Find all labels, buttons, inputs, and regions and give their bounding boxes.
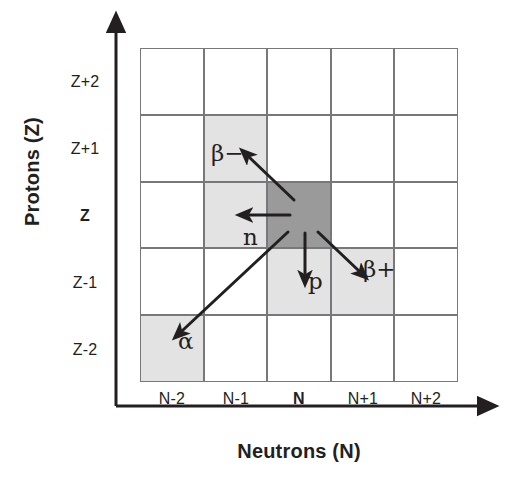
nuclide-cell (394, 182, 458, 249)
x-tick-n-minus-2: N-2 (140, 390, 204, 408)
nuclide-cell (394, 48, 458, 115)
nuclide-cell (204, 48, 268, 115)
nuclide-cell (267, 115, 331, 182)
x-axis-title: Neutrons (N) (140, 440, 458, 463)
beta-plus-label: β+ (363, 258, 396, 281)
nuclide-cell (140, 248, 204, 315)
nuclide-cell (140, 48, 204, 115)
y-tick-z-plus-1: Z+1 (48, 140, 122, 158)
nuclide-cell (204, 315, 268, 382)
nuclide-cell (394, 115, 458, 182)
nuclide-cell (267, 182, 331, 249)
proton-label: p (308, 270, 323, 293)
nuclide-cell (394, 315, 458, 382)
nuclide-chart-figure: Protons (Z) Z+2 Z+1 Z Z-1 Z-2 N-2 N-1 N … (0, 0, 508, 484)
y-tick-z-plus-2: Z+2 (48, 73, 122, 91)
nuclide-cell (331, 182, 395, 249)
alpha-label: α (178, 330, 194, 353)
nuclide-cell (267, 48, 331, 115)
y-axis-title: Protons (Z) (21, 62, 44, 282)
nuclide-cell (267, 315, 331, 382)
nuclide-cell (331, 315, 395, 382)
x-tick-n-plus-1: N+1 (331, 390, 395, 408)
nuclide-cell (331, 115, 395, 182)
neutron-label: n (243, 226, 258, 249)
nuclide-cell (140, 115, 204, 182)
y-tick-z-minus-1: Z-1 (48, 274, 122, 292)
nuclide-cell (331, 48, 395, 115)
nuclide-cell (140, 182, 204, 249)
nuclide-cell (140, 315, 204, 382)
y-tick-z-minus-2: Z-2 (48, 341, 122, 359)
x-tick-n-minus-1: N-1 (204, 390, 268, 408)
x-tick-n: N (267, 390, 331, 408)
nuclide-cell (394, 248, 458, 315)
nuclide-cell (204, 248, 268, 315)
y-tick-z: Z (48, 207, 122, 225)
beta-minus-label: β− (211, 142, 244, 165)
x-tick-n-plus-2: N+2 (394, 390, 458, 408)
